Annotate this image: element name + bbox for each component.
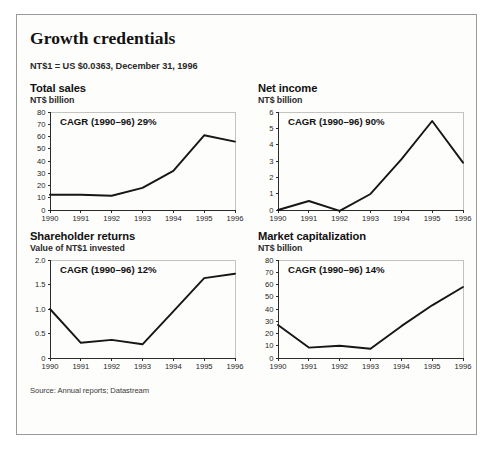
line-chart-market-capitalization: 0102030405060708019901991199219931994199…: [258, 255, 474, 379]
svg-text:1991: 1991: [300, 362, 317, 371]
svg-text:1991: 1991: [300, 214, 317, 223]
svg-text:2: 2: [269, 173, 273, 182]
svg-text:20: 20: [265, 329, 273, 338]
svg-text:1991: 1991: [72, 362, 89, 371]
cagr-annotation: CAGR (1990–96) 90%: [288, 116, 385, 127]
svg-text:1994: 1994: [165, 362, 182, 371]
svg-text:1: 1: [269, 189, 273, 198]
svg-text:50: 50: [265, 292, 273, 301]
svg-text:40: 40: [265, 305, 273, 314]
svg-text:2.0: 2.0: [35, 256, 46, 265]
svg-text:1990: 1990: [270, 362, 287, 371]
svg-text:0.5: 0.5: [35, 329, 46, 338]
chart-title-shareholder-returns: Shareholder returns: [30, 230, 258, 243]
chart-panel-total-sales: Total sales NT$ billion 0102030405060708…: [30, 82, 258, 230]
cagr-annotation: CAGR (1990–96) 12%: [60, 264, 157, 275]
svg-text:5: 5: [269, 124, 273, 133]
svg-text:80: 80: [37, 108, 45, 117]
cagr-annotation: CAGR (1990–96) 14%: [288, 264, 385, 275]
svg-text:70: 70: [37, 120, 45, 129]
svg-text:1996: 1996: [455, 362, 472, 371]
svg-text:10: 10: [265, 341, 273, 350]
svg-text:70: 70: [265, 268, 273, 277]
svg-text:1992: 1992: [103, 362, 120, 371]
chart-canvas-market-capitalization: 0102030405060708019901991199219931994199…: [258, 255, 467, 379]
chart-grid: Total sales NT$ billion 0102030405060708…: [30, 82, 467, 380]
svg-text:1996: 1996: [455, 214, 472, 223]
chart-panel-net-income: Net income NT$ billion 01234561990199119…: [258, 82, 467, 230]
svg-text:1992: 1992: [331, 214, 348, 223]
svg-text:30: 30: [37, 169, 45, 178]
svg-text:1990: 1990: [42, 362, 59, 371]
chart-title-net-income: Net income: [258, 82, 467, 95]
svg-text:1992: 1992: [331, 362, 348, 371]
svg-text:1996: 1996: [227, 214, 244, 223]
page-title: Growth credentials: [30, 29, 467, 48]
svg-text:1995: 1995: [196, 362, 213, 371]
svg-text:40: 40: [37, 157, 45, 166]
svg-text:1993: 1993: [362, 362, 379, 371]
chart-panel-shareholder-returns: Shareholder returns Value of NT$1 invest…: [30, 230, 258, 380]
chart-canvas-shareholder-returns: 00.51.01.52.0199019911992199319941995199…: [30, 255, 258, 379]
svg-text:1994: 1994: [165, 214, 182, 223]
svg-text:1993: 1993: [134, 362, 151, 371]
line-chart-shareholder-returns: 00.51.01.52.0199019911992199319941995199…: [30, 255, 246, 379]
exhibit-panel: Growth credentials NT$1 = US $0.0363, De…: [16, 14, 477, 435]
svg-text:6: 6: [269, 108, 273, 117]
svg-text:1.0: 1.0: [35, 305, 46, 314]
chart-canvas-net-income: 01234561990199119921993199419951996CAGR …: [258, 107, 467, 231]
svg-text:1993: 1993: [134, 214, 151, 223]
svg-text:10: 10: [37, 193, 45, 202]
svg-text:1995: 1995: [424, 362, 441, 371]
svg-text:1996: 1996: [227, 362, 244, 371]
chart-subtitle-total-sales: NT$ billion: [30, 95, 258, 105]
svg-text:1990: 1990: [42, 214, 59, 223]
chart-title-total-sales: Total sales: [30, 82, 258, 95]
cagr-annotation: CAGR (1990–96) 29%: [60, 116, 157, 127]
svg-text:1990: 1990: [270, 214, 287, 223]
line-chart-net-income: 01234561990199119921993199419951996CAGR …: [258, 107, 474, 231]
chart-subtitle-shareholder-returns: Value of NT$1 invested: [30, 243, 258, 253]
svg-text:3: 3: [269, 157, 273, 166]
svg-text:1995: 1995: [424, 214, 441, 223]
svg-text:1.5: 1.5: [35, 280, 46, 289]
svg-text:50: 50: [37, 144, 45, 153]
svg-text:60: 60: [265, 280, 273, 289]
source-note: Source: Annual reports; Datastream: [30, 386, 467, 395]
chart-title-market-capitalization: Market capitalization: [258, 230, 467, 243]
svg-text:1995: 1995: [196, 214, 213, 223]
svg-text:60: 60: [37, 132, 45, 141]
chart-subtitle-market-capitalization: NT$ billion: [258, 243, 467, 253]
svg-text:4: 4: [269, 140, 273, 149]
line-chart-total-sales: 0102030405060708019901991199219931994199…: [30, 107, 246, 231]
svg-text:1993: 1993: [362, 214, 379, 223]
svg-text:80: 80: [265, 256, 273, 265]
svg-text:30: 30: [265, 317, 273, 326]
svg-text:1994: 1994: [393, 362, 410, 371]
exchange-rate-note: NT$1 = US $0.0363, December 31, 1996: [30, 61, 467, 71]
chart-canvas-total-sales: 0102030405060708019901991199219931994199…: [30, 107, 258, 231]
svg-text:20: 20: [37, 181, 45, 190]
svg-text:1994: 1994: [393, 214, 410, 223]
svg-text:1991: 1991: [72, 214, 89, 223]
chart-panel-market-capitalization: Market capitalization NT$ billion 010203…: [258, 230, 467, 380]
svg-text:1992: 1992: [103, 214, 120, 223]
chart-subtitle-net-income: NT$ billion: [258, 95, 467, 105]
